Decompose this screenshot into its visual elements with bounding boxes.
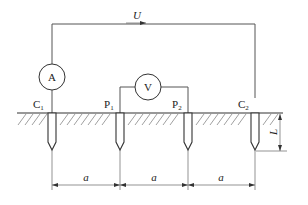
voltmeter-wire-left <box>120 87 135 113</box>
electrode-c1 <box>48 113 56 150</box>
voltmeter-label: V <box>144 81 152 93</box>
ammeter-label: A <box>48 71 56 83</box>
electrode-label-c1: C1 <box>33 98 44 112</box>
electrode-label-c2: C2 <box>238 98 249 112</box>
spacing-label-2: a <box>151 171 157 183</box>
electrode-p1 <box>116 113 124 150</box>
electrode-c2 <box>251 113 259 150</box>
spacing-label-1: a <box>83 171 89 183</box>
electrode-label-p1: P1 <box>104 98 114 112</box>
source-voltage-label: U <box>133 9 142 21</box>
electrode-p2 <box>184 113 192 150</box>
electrode-labels: C1 P1 P2 C2 <box>33 98 249 112</box>
spacing-label-3: a <box>218 171 224 183</box>
depth-dimension: L <box>256 114 287 151</box>
spacing-dimensions: a a a <box>52 150 255 190</box>
depth-label: L <box>267 129 279 136</box>
ground-hatching <box>18 114 278 125</box>
wenner-method-diagram: U A V C1 P1 P2 C2 <box>0 0 308 205</box>
ground-surface <box>17 113 283 125</box>
electrode-label-p2: P2 <box>172 98 182 112</box>
